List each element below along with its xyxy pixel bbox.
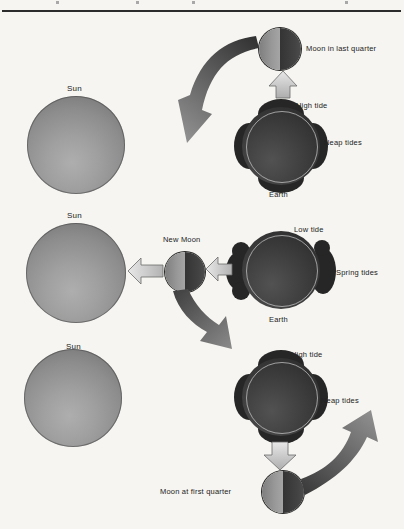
earth-label: Earth — [269, 315, 288, 324]
alignment-arrow-sun-icon — [128, 258, 163, 284]
moon-new — [165, 252, 205, 292]
header-text-remnant — [56, 1, 59, 4]
moon-first-quarter — [262, 471, 304, 513]
moon-lit-half — [259, 28, 280, 70]
moon-last-quarter — [259, 28, 301, 70]
moon-lit-half — [262, 471, 283, 513]
tide-arrow-up-icon — [269, 71, 297, 98]
moon-label: Moon in last quarter — [306, 44, 376, 53]
header-text-remnant — [345, 1, 348, 4]
earth-neap-bottom — [233, 349, 329, 445]
moon-lit-half — [165, 252, 185, 292]
header-text-remnant — [136, 1, 139, 4]
sun-label: Sun — [66, 342, 81, 351]
neap-tides-label: Neap tides — [324, 138, 362, 147]
sun-illustration-top — [27, 96, 125, 194]
spring-tides-label: Spring tides — [336, 268, 378, 277]
earth-outline-ring — [246, 111, 318, 183]
header-text-remnant — [192, 1, 195, 4]
neap-tides-label: Neap tides — [321, 396, 359, 405]
earth-outline-ring — [246, 362, 318, 434]
book-page: Sun Moon in last quarter High tide Neap … — [0, 0, 404, 529]
sun-label: Sun — [67, 84, 82, 93]
sun-label: Sun — [67, 211, 82, 220]
moon-label: Moon at first quarter — [160, 487, 231, 496]
moon-dark-half — [280, 28, 301, 70]
earth-spring-middle — [224, 226, 338, 316]
earth-label: Earth — [269, 190, 288, 199]
sun-illustration-middle — [26, 223, 126, 323]
tide-arrow-down-icon — [264, 442, 296, 470]
page-rule — [2, 10, 401, 12]
earth-neap-top — [233, 98, 329, 194]
sun-illustration-bottom — [24, 349, 122, 447]
earth-outline-ring — [246, 235, 318, 307]
moon-label: New Moon — [163, 235, 200, 244]
moon-dark-half — [185, 252, 205, 292]
moon-dark-half — [283, 471, 304, 513]
